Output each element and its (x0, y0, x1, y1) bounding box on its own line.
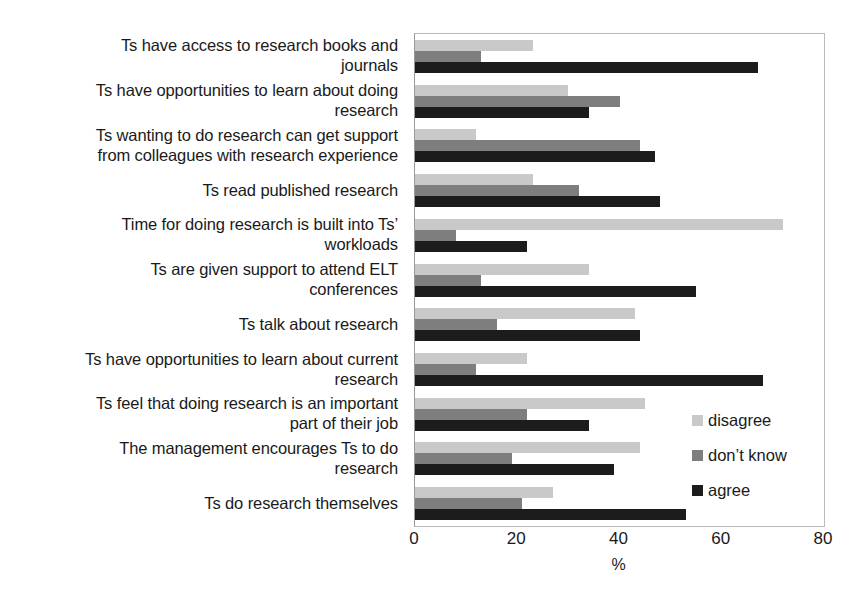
category-label-line: Time for doing research is built into Ts… (121, 214, 398, 234)
x-tick-label: 20 (507, 529, 526, 549)
bar-dontknow (415, 185, 579, 196)
bar-agree (415, 241, 527, 252)
bar-agree (415, 286, 696, 297)
bar-dontknow (415, 498, 522, 509)
bar-group (415, 213, 824, 258)
category-label-line: Ts read published research (202, 180, 398, 200)
category-label: Ts do research themselves (0, 480, 404, 525)
x-axis: 020406080 (414, 527, 823, 557)
bar-disagree (415, 487, 553, 498)
bar-dontknow (415, 319, 497, 330)
bar-chart: Ts have access to research books andjour… (0, 0, 850, 595)
x-axis-title: % (414, 556, 823, 574)
bar-disagree (415, 264, 589, 275)
bar-disagree (415, 442, 640, 453)
category-label-line: Ts have access to research books and (121, 35, 398, 55)
category-label-line: Ts have opportunities to learn about cur… (85, 349, 398, 369)
category-label-line: Ts feel that doing research is an import… (96, 393, 398, 413)
legend-label: don’t know (708, 446, 787, 465)
bar-disagree (415, 85, 568, 96)
legend-label: agree (708, 481, 750, 500)
category-label-line: The management encourages Ts to do (119, 438, 398, 458)
category-label: Time for doing research is built into Ts… (0, 212, 404, 257)
bar-dontknow (415, 140, 640, 151)
bar-disagree (415, 308, 635, 319)
bar-agree (415, 196, 660, 207)
legend-swatch-icon (692, 415, 703, 426)
category-label: Ts are given support to attend ELTconfer… (0, 257, 404, 302)
x-tick-label: 80 (814, 529, 833, 549)
category-label-line: journals (121, 55, 398, 75)
bar-dontknow (415, 96, 620, 107)
category-label-line: workloads (121, 234, 398, 254)
bar-dontknow (415, 453, 512, 464)
legend-item-dontknow[interactable]: don’t know (692, 438, 822, 473)
category-label: Ts talk about research (0, 301, 404, 346)
bar-agree (415, 375, 763, 386)
legend-label: disagree (708, 411, 771, 430)
category-label-line: research (96, 100, 398, 120)
bar-group (415, 79, 824, 124)
category-label: Ts have opportunities to learn about cur… (0, 346, 404, 391)
category-axis: Ts have access to research books andjour… (0, 33, 404, 525)
bar-group (415, 34, 824, 79)
bar-dontknow (415, 364, 476, 375)
category-label: Ts have access to research books andjour… (0, 33, 404, 78)
category-label-line: Ts talk about research (239, 314, 398, 334)
category-label-line: from colleagues with research experience (96, 145, 398, 165)
x-tick-label: 40 (609, 529, 628, 549)
bar-dontknow (415, 275, 481, 286)
bar-disagree (415, 40, 533, 51)
bar-disagree (415, 219, 783, 230)
bar-group (415, 302, 824, 347)
chart-legend: disagreedon’t knowagree (692, 403, 822, 508)
legend-swatch-icon (692, 485, 703, 496)
bar-disagree (415, 353, 527, 364)
bar-dontknow (415, 409, 527, 420)
category-label-line: research (119, 458, 398, 478)
category-label-line: Ts have opportunities to learn about doi… (96, 80, 398, 100)
bar-group (415, 347, 824, 392)
x-tick-label: 0 (409, 529, 418, 549)
category-label-line: part of their job (96, 413, 398, 433)
x-tick-label: 60 (711, 529, 730, 549)
category-label: Ts read published research (0, 167, 404, 212)
bar-agree (415, 509, 686, 520)
bar-agree (415, 464, 614, 475)
category-label-line: Ts do research themselves (204, 493, 398, 513)
bar-agree (415, 330, 640, 341)
legend-swatch-icon (692, 450, 703, 461)
category-label-line: conferences (150, 279, 398, 299)
category-label: Ts have opportunities to learn about doi… (0, 78, 404, 123)
legend-item-agree[interactable]: agree (692, 473, 822, 508)
bar-group (415, 168, 824, 213)
bar-agree (415, 62, 758, 73)
bar-disagree (415, 129, 476, 140)
bar-group (415, 258, 824, 303)
category-label: Ts feel that doing research is an import… (0, 391, 404, 436)
bar-agree (415, 420, 589, 431)
bar-group (415, 123, 824, 168)
legend-item-disagree[interactable]: disagree (692, 403, 822, 438)
bar-agree (415, 107, 589, 118)
bar-dontknow (415, 230, 456, 241)
category-label-line: Ts wanting to do research can get suppor… (96, 125, 398, 145)
category-label: Ts wanting to do research can get suppor… (0, 122, 404, 167)
category-label: The management encourages Ts to doresear… (0, 436, 404, 481)
bar-agree (415, 151, 655, 162)
bar-disagree (415, 398, 645, 409)
category-label-line: research (85, 369, 398, 389)
bar-dontknow (415, 51, 481, 62)
bar-disagree (415, 174, 533, 185)
category-label-line: Ts are given support to attend ELT (150, 259, 398, 279)
